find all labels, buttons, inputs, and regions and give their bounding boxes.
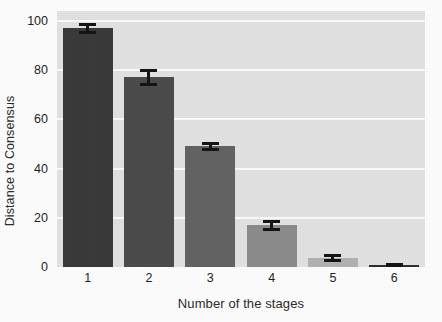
x-tick-label: 2 [129, 271, 169, 285]
error-bar [247, 220, 297, 231]
error-bar-cap-lower [140, 83, 157, 86]
x-tick-label: 4 [252, 271, 292, 285]
x-tick-label: 1 [68, 271, 108, 285]
error-bar-cap-lower [79, 31, 96, 34]
plot-area [57, 11, 425, 267]
error-bar-cap-lower [324, 259, 341, 262]
bar [247, 225, 297, 267]
x-axis-tick-labels: 1 2 3 4 5 6 [57, 271, 425, 291]
bar [63, 28, 113, 267]
error-bar [369, 263, 419, 267]
x-axis-title: Number of the stages [57, 296, 425, 311]
error-bar-cap-upper [79, 23, 96, 26]
error-bar-cap-upper [263, 220, 280, 223]
y-tick-label: 60 [6, 112, 54, 126]
x-tick-label: 5 [313, 271, 353, 285]
y-tick-label: 40 [6, 162, 54, 176]
error-bar [308, 254, 358, 262]
error-bar [185, 142, 235, 151]
error-bar [124, 69, 174, 86]
bar [185, 146, 235, 267]
error-bar-cap-lower [386, 264, 403, 267]
error-bar-cap-upper [202, 142, 219, 145]
bar-chart-figure: Distance to Consensus 100 80 60 40 20 0 … [0, 0, 442, 322]
y-tick-label: 0 [6, 260, 54, 274]
error-bar [63, 23, 113, 34]
x-tick-label: 3 [190, 271, 230, 285]
bar [124, 77, 174, 267]
y-tick-label: 20 [6, 211, 54, 225]
y-axis-tick-labels: 100 80 60 40 20 0 [6, 0, 54, 322]
error-bar-cap-lower [263, 228, 280, 231]
y-tick-label: 80 [6, 63, 54, 77]
error-bar-cap-upper [324, 254, 341, 257]
error-bar-cap-upper [140, 69, 157, 72]
error-bar-cap-lower [202, 148, 219, 151]
gridline [57, 20, 425, 22]
x-tick-label: 6 [374, 271, 414, 285]
y-tick-label: 100 [6, 14, 54, 28]
